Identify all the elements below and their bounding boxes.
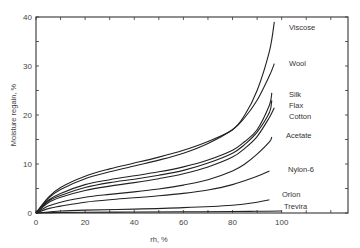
x-tick-label: 20 xyxy=(81,218,90,227)
label-orlon: Orlon xyxy=(282,190,300,199)
series-curves xyxy=(36,22,282,213)
curve-wool xyxy=(36,64,274,213)
series-labels: ViscoseWoolSilkFlaxCottonAcetateNylon-6O… xyxy=(282,23,315,211)
x-tick-label: 100 xyxy=(275,218,289,227)
y-axis-title: Moisture regain, % xyxy=(9,83,18,146)
label-silk: Silk xyxy=(289,90,301,99)
label-cotton: Cotton xyxy=(289,112,311,121)
label-nylon-6: Nylon-6 xyxy=(288,165,314,174)
x-tick-label: 0 xyxy=(34,218,39,227)
label-acetate: Acetate xyxy=(286,131,311,140)
x-tick-label: 80 xyxy=(228,218,237,227)
x-axis-title: rh, % xyxy=(150,235,168,244)
x-tick-label: 40 xyxy=(130,218,139,227)
curve-silk xyxy=(36,93,272,213)
label-flax: Flax xyxy=(289,101,303,110)
moisture-regain-chart: 020406080100010203040 ViscoseWoolSilkFla… xyxy=(0,0,360,248)
label-trevira: Trevira xyxy=(284,202,308,211)
label-viscose: Viscose xyxy=(289,23,315,32)
x-tick-label: 60 xyxy=(179,218,188,227)
y-tick-label: 30 xyxy=(23,62,32,71)
y-tick-label: 10 xyxy=(23,160,32,169)
y-tick-label: 20 xyxy=(23,111,32,120)
label-wool: Wool xyxy=(289,59,306,68)
y-tick-label: 0 xyxy=(28,209,33,218)
y-tick-label: 40 xyxy=(23,13,32,22)
